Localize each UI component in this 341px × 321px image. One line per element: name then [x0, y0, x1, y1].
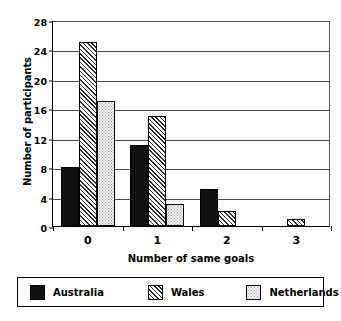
bars-group: [53, 22, 329, 226]
bar-chart-figure: Number of participants 0481216202428 012…: [0, 0, 341, 321]
bar-wales-0: [79, 42, 97, 226]
x-tick-mark: [331, 226, 332, 231]
x-tick-mark: [192, 226, 193, 231]
bar-wales-1: [148, 116, 166, 226]
plot-area: 0481216202428 0123: [52, 21, 330, 227]
y-tick-label: 24: [34, 46, 47, 57]
bar-australia-0: [61, 167, 79, 226]
bar-wales-2: [218, 211, 236, 226]
legend-entry-netherlands: Netherlands: [246, 285, 338, 300]
x-tick-mark: [123, 226, 124, 231]
x-tick-label: 3: [292, 234, 300, 247]
bar-netherlands-0: [97, 101, 115, 226]
legend-label-netherlands: Netherlands: [269, 287, 338, 298]
x-tick-label: 1: [153, 234, 161, 247]
bar-wales-3: [287, 219, 305, 226]
y-tick-label: 0: [40, 223, 47, 234]
legend-label-wales: Wales: [171, 287, 205, 298]
y-tick-label: 4: [40, 193, 47, 204]
y-tick-label: 12: [34, 134, 47, 145]
y-tick-label: 8: [40, 164, 47, 175]
bar-australia-2: [200, 189, 218, 226]
y-axis-title: Number of participants: [22, 27, 33, 217]
x-tick-mark: [53, 226, 54, 231]
x-axis-title: Number of same goals: [52, 253, 330, 264]
x-tick-label: 2: [223, 234, 231, 247]
legend-swatch-netherlands: [246, 285, 261, 300]
chart-legend: Australia Wales Netherlands: [17, 277, 324, 307]
y-tick-label: 20: [34, 75, 47, 86]
y-tick-label: 16: [34, 105, 47, 116]
legend-swatch-australia: [30, 285, 45, 300]
x-tick-label: 0: [84, 234, 92, 247]
legend-entry-wales: Wales: [148, 285, 205, 300]
bar-netherlands-1: [166, 204, 184, 226]
legend-label-australia: Australia: [53, 287, 104, 298]
y-tick-label: 28: [34, 17, 47, 28]
bar-australia-1: [130, 145, 148, 226]
legend-swatch-wales: [148, 285, 163, 300]
legend-entry-australia: Australia: [30, 285, 104, 300]
x-tick-mark: [262, 226, 263, 231]
